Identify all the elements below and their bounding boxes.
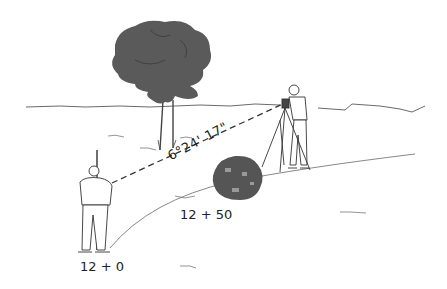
instrument-operator: [288, 85, 309, 168]
station-label-start: 12 + 0: [80, 259, 124, 274]
station-label-mid: 12 + 50: [180, 207, 232, 222]
ground-curve: [110, 154, 415, 248]
grass-tufts: [108, 135, 366, 268]
tree: [112, 21, 211, 150]
rod-person: [78, 150, 112, 252]
horizon-line: [26, 104, 425, 112]
survey-illustration: [0, 0, 447, 289]
bush-obstacle: [213, 156, 263, 200]
